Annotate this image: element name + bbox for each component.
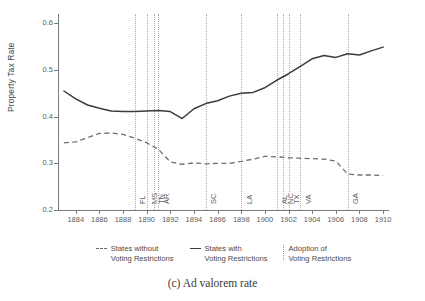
x-tick-mark	[359, 210, 360, 214]
x-tick-mark	[312, 210, 313, 214]
dotted-line-key-icon	[283, 245, 284, 260]
legend-label-states-with: States withVoting Restrictions	[205, 244, 268, 265]
y-tick-label: 0.6	[43, 20, 53, 28]
legend-label-adoption: Adoption ofVoting Restrictions	[288, 244, 351, 265]
dashed-line-key-icon	[96, 248, 107, 249]
x-tick-label: 1892	[162, 216, 179, 224]
y-tick-label: 0.5	[43, 66, 53, 74]
y-tick-label: 0.3	[43, 160, 53, 168]
x-tick-mark	[241, 210, 242, 214]
x-tick-label: 1902	[280, 216, 297, 224]
line-states-with-restrictions	[64, 47, 383, 118]
figure-caption: (c) Ad valorem rate	[0, 277, 425, 289]
x-tick-label: 1898	[233, 216, 250, 224]
x-tick-mark	[170, 210, 171, 214]
legend-label-states-without: States withoutVoting Restrictions	[111, 244, 174, 265]
x-tick-label: 1904	[304, 216, 321, 224]
y-axis-title: Property Tax Rate	[6, 42, 16, 112]
x-tick-label: 1888	[115, 216, 132, 224]
x-tick-label: 1896	[209, 216, 226, 224]
x-tick-mark	[383, 210, 384, 214]
x-tick-mark	[123, 210, 124, 214]
x-tick-mark	[218, 210, 219, 214]
x-tick-mark	[147, 210, 148, 214]
x-tick-label: 1886	[91, 216, 108, 224]
x-axis-line	[58, 210, 389, 211]
x-tick-mark	[99, 210, 100, 214]
series-layer	[58, 14, 389, 210]
x-tick-mark	[194, 210, 195, 214]
x-tick-label: 1906	[327, 216, 344, 224]
x-tick-mark	[76, 210, 77, 214]
y-tick-label: 0.2	[43, 206, 53, 214]
x-tick-label: 1910	[375, 216, 392, 224]
y-tick-label: 0.4	[43, 113, 53, 121]
line-states-without-restrictions	[64, 133, 383, 175]
x-tick-label: 1894	[186, 216, 203, 224]
plot-area: 0.20.30.40.50.6 188418861888189018921894…	[58, 14, 389, 210]
x-tick-label: 1884	[67, 216, 84, 224]
x-tick-mark	[265, 210, 266, 214]
x-tick-mark	[289, 210, 290, 214]
x-tick-label: 1908	[351, 216, 368, 224]
legend-item-states-with: States withVoting Restrictions	[190, 244, 268, 265]
legend-item-states-without: States withoutVoting Restrictions	[96, 244, 174, 265]
x-tick-label: 1890	[138, 216, 155, 224]
y-tick-mark	[54, 210, 58, 211]
chart-legend: States withoutVoting Restrictions States…	[58, 244, 389, 270]
figure-ad-valorem-rate: 0.20.30.40.50.6 188418861888189018921894…	[0, 0, 425, 301]
x-tick-mark	[336, 210, 337, 214]
solid-line-key-icon	[190, 248, 201, 249]
x-tick-label: 1900	[257, 216, 274, 224]
legend-item-adoption: Adoption ofVoting Restrictions	[283, 244, 351, 265]
